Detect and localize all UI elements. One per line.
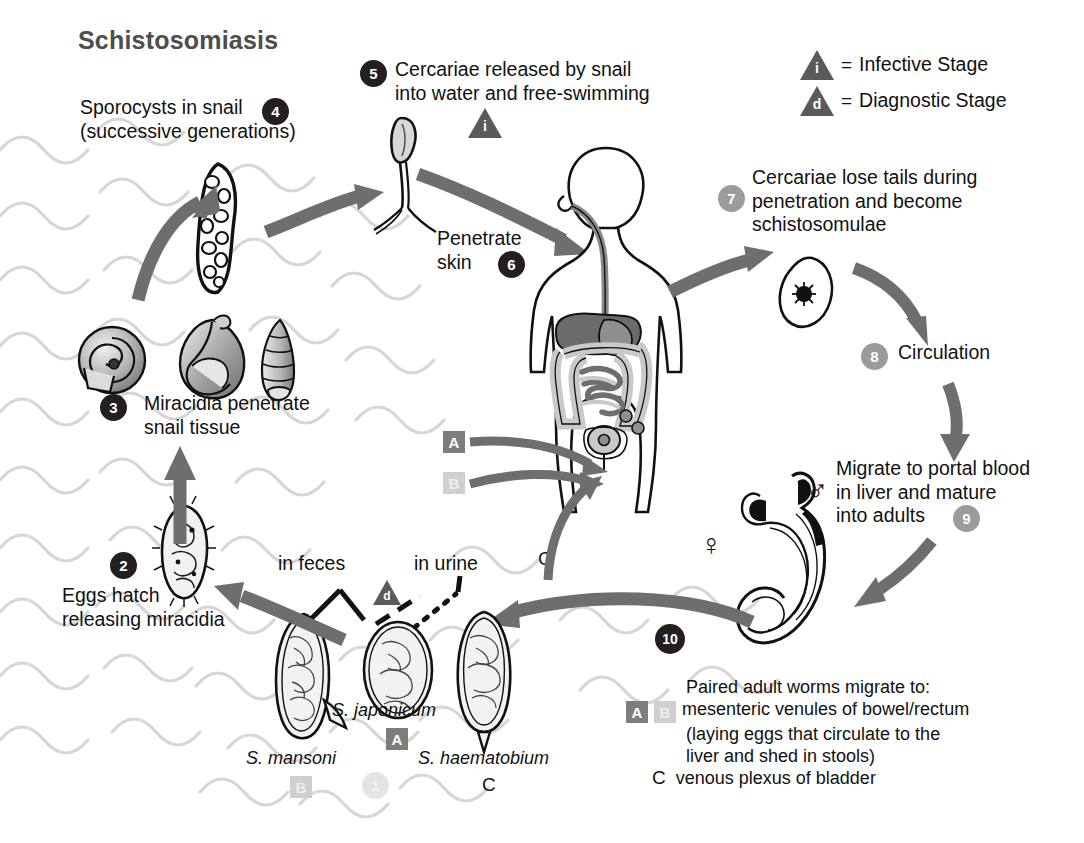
snail-bulinus-illustration [168,310,258,405]
migration-line-3: (laying eggs that circulate to the [686,723,1046,745]
legend-diagnostic-label: Diagnostic Stage [859,89,1006,113]
arrow-schistosomule-to-circulation [848,262,958,352]
legend-diagnostic-equals: = [841,90,852,112]
step-5-badge: 5 [360,60,387,87]
migration-line-4: liver and shed in stools) [686,745,1046,767]
step-7-text: Cercariae lose tails during penetration … [752,166,977,237]
diagram-canvas: Schistosomiasis i = Infective Stage d = … [0,0,1084,843]
excretion-feces-label: in feces [278,552,345,576]
legend-infective-row: i = Infective Stage [800,50,1007,80]
legend: i = Infective Stage d = Diagnostic Stage [800,50,1007,116]
species-label-mansoni: S. mansoni [246,748,336,769]
step-5-text: Cercariae released by snail into water a… [395,58,650,105]
arrow-miracidium-to-snail [148,440,218,550]
excretion-urine-label: in urine [414,552,478,576]
migration-line-5: venous plexus of bladder [676,767,876,789]
diagnostic-stage-triangle-icon: d [800,86,834,116]
step-1-badge: 1 [362,772,389,799]
migration-line-1: Paired adult worms migrate to: [686,676,1046,698]
arrow-snail-to-sporocyst [120,180,230,310]
infective-stage-triangle-icon: i [800,50,834,80]
egg-s-haematobium-illustration [440,606,540,751]
step-7-badge: 7 [718,185,745,212]
species-label-japonicum: S. japonicum [332,700,436,721]
step-8-badge: 8 [861,343,888,370]
migration-marker-a: A [626,701,648,723]
infective-stage-triangle-icon-cercaria: i [468,108,502,138]
male-symbol-icon: ♂ [806,474,829,508]
page-title: Schistosomiasis [78,26,278,55]
legend-infective-label: Infective Stage [859,53,988,77]
step-2-text: Eggs hatch releasing miracidia [62,584,225,631]
snail-oncomelania-illustration [252,316,312,406]
female-symbol-icon: ♀ [700,528,723,562]
step-10-badge: 10 [655,624,685,654]
body-marker-arrows [462,420,652,600]
migration-marker-b: B [654,701,676,723]
species-marker-mansoni: B [290,776,312,798]
step-8-text: Circulation [898,341,990,365]
species-label-haematobium: S. haematobium [418,748,549,769]
snail-planorbid-illustration [70,322,160,402]
step-4-badge: 4 [262,98,289,125]
schistosomulum-illustration [768,252,858,342]
legend-diagnostic-row: d = Diagnostic Stage [800,86,1007,116]
migration-line-2: mesenteric venules of bowel/rectum [682,698,969,720]
step-2-badge: 2 [110,552,137,579]
migration-marker-c: C [652,767,666,789]
species-marker-haematobium: C [482,774,496,796]
legend-infective-equals: = [841,54,852,76]
step-9-badge: 9 [953,505,980,532]
species-marker-japonicum: A [386,728,408,750]
migration-note: Paired adult worms migrate to: A B mesen… [626,676,1046,789]
